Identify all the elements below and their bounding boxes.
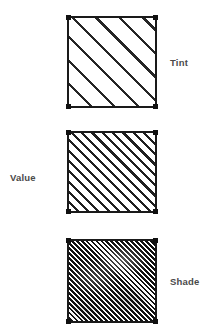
- corner-marker-icon: [66, 130, 71, 135]
- corner-marker-icon: [153, 319, 158, 324]
- corner-marker-icon: [153, 104, 158, 109]
- corner-marker-icon: [66, 104, 71, 109]
- corner-marker-icon: [153, 209, 158, 214]
- corner-marker-icon: [153, 15, 158, 20]
- swatch-shade[interactable]: [67, 239, 157, 323]
- value-scale-diagram: Tint Value Shade: [0, 0, 207, 336]
- corner-marker-icon: [66, 319, 71, 324]
- corner-marker-icon: [66, 209, 71, 214]
- corner-marker-icon: [66, 238, 71, 243]
- swatch-value[interactable]: [67, 131, 157, 213]
- corner-marker-icon: [153, 130, 158, 135]
- label-shade: Shade: [170, 277, 200, 287]
- label-tint: Tint: [170, 58, 188, 68]
- shade-gradient-overlay: [69, 241, 155, 321]
- label-value-axis: Value: [10, 173, 36, 183]
- corner-marker-icon: [153, 238, 158, 243]
- swatch-tint[interactable]: [67, 16, 157, 108]
- corner-marker-icon: [66, 15, 71, 20]
